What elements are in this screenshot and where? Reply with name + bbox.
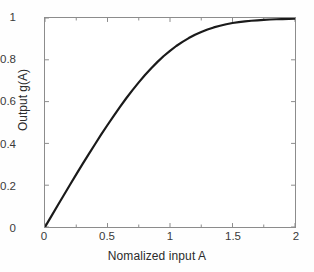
x-axis-title: Nomalized input A	[0, 249, 314, 263]
x-tick-label: 0.5	[87, 231, 127, 243]
plot-svg	[45, 18, 295, 227]
data-series-curve	[45, 19, 295, 227]
plot-area	[44, 17, 296, 228]
figure-canvas: 1 0.8 0.6 0.4 0.2 0 0 0.5 1 1.5 2 Nomali…	[0, 0, 314, 272]
x-tick-label: 0	[24, 231, 64, 243]
y-tick-label: 1	[0, 12, 16, 24]
y-tick-label: 0.6	[0, 96, 16, 108]
y-tick-label: 0	[0, 223, 16, 235]
x-tick-label: 1	[150, 231, 190, 243]
tick-marks	[45, 18, 295, 227]
x-tick-label: 2	[276, 231, 314, 243]
y-tick-label: 0.8	[0, 54, 16, 66]
y-axis-title: Output g(A)	[16, 25, 30, 175]
y-tick-label: 0.4	[0, 139, 16, 151]
y-tick-label: 0.2	[0, 181, 16, 193]
x-tick-label: 1.5	[213, 231, 253, 243]
